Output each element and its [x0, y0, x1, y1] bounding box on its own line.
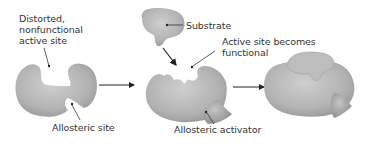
leader-dot [71, 103, 73, 105]
leader-line [193, 51, 215, 66]
enzyme-shape [15, 63, 97, 116]
arrow-icon [163, 48, 176, 65]
leader-dot [205, 111, 207, 113]
substrate-shape [142, 8, 185, 46]
inactive-enzyme [15, 63, 97, 116]
allosteric-activator-label: Allosteric activator [174, 124, 261, 135]
distorted-site-label: Distorted, nonfunctional active site [19, 13, 83, 46]
activated-enzyme [146, 66, 232, 124]
substrate-label: Substrate [186, 20, 231, 31]
leader-line [44, 48, 49, 66]
leader-dot [48, 65, 50, 67]
leader-line [72, 105, 80, 120]
leader-dot [166, 24, 168, 26]
allosteric-site-label: Allosteric site [52, 122, 115, 133]
active-site-functional-label: Active site becomes functional [222, 36, 316, 58]
leader-dot [191, 66, 193, 68]
active-complex [264, 52, 354, 118]
